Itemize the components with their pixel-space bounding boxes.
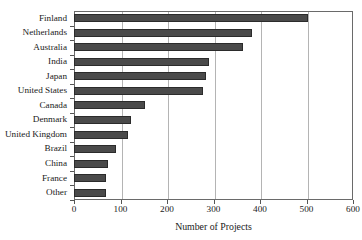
bar-row: [74, 127, 353, 142]
y-axis-tick-label: Canada: [0, 98, 71, 113]
y-axis-tick-label: Netherlands: [0, 26, 71, 41]
x-axis-tick-label: 400: [240, 205, 280, 214]
y-axis-tick-mark: [70, 142, 74, 143]
bar-row: [74, 55, 353, 70]
bar[interactable]: [74, 72, 206, 80]
bar[interactable]: [74, 145, 116, 153]
category-label: United States: [18, 86, 67, 95]
bar-row: [74, 185, 353, 200]
x-axis-tick-label: 500: [287, 205, 327, 214]
bar[interactable]: [74, 189, 106, 197]
bar-row: [74, 171, 353, 186]
y-axis-tick-label: Other: [0, 185, 71, 200]
bar[interactable]: [74, 101, 145, 109]
category-label: Canada: [39, 101, 67, 110]
category-label: Denmark: [33, 115, 67, 124]
bar-row: [74, 69, 353, 84]
y-axis-tick-mark: [70, 40, 74, 41]
bar[interactable]: [74, 174, 106, 182]
y-axis-tick-mark: [70, 98, 74, 99]
category-label: India: [48, 57, 67, 66]
y-axis-tick-mark: [70, 113, 74, 114]
y-axis-tick-label: India: [0, 55, 71, 70]
y-axis-tick-label: Brazil: [0, 142, 71, 157]
bar-row: [74, 142, 353, 157]
category-label: Netherlands: [23, 28, 67, 37]
category-label: Other: [46, 188, 67, 197]
x-axis-tick-label: 0: [54, 205, 94, 214]
bar-row: [74, 156, 353, 171]
bar-row: [74, 11, 353, 26]
bar-row: [74, 98, 353, 113]
y-axis-tick-mark: [70, 55, 74, 56]
category-label: United Kingdom: [5, 130, 67, 139]
y-axis-tick-mark: [70, 185, 74, 186]
y-axis-tick-label: Finland: [0, 11, 71, 26]
bars-layer: [74, 11, 353, 200]
x-axis-tick-label: 200: [147, 205, 187, 214]
x-axis-tick-label: 100: [101, 205, 141, 214]
x-axis-tick-label: 600: [333, 205, 362, 214]
bar-chart-figure: FinlandNetherlandsAustraliaIndiaJapanUni…: [0, 0, 362, 240]
bar-row: [74, 40, 353, 55]
y-axis-tick-label: France: [0, 171, 71, 186]
bar-row: [74, 84, 353, 99]
category-label: Australia: [33, 43, 67, 52]
bar[interactable]: [74, 43, 243, 51]
bar[interactable]: [74, 131, 128, 139]
y-axis-tick-label: United Kingdom: [0, 127, 71, 142]
y-axis-tick-mark: [70, 156, 74, 157]
y-axis-tick-mark: [70, 26, 74, 27]
bar[interactable]: [74, 14, 308, 22]
y-axis-tick-label: Japan: [0, 69, 71, 84]
bar-row: [74, 26, 353, 41]
figure-title: [0, 0, 362, 4]
y-axis-tick-mark: [70, 69, 74, 70]
y-axis-tick-label: Denmark: [0, 113, 71, 128]
bar[interactable]: [74, 160, 108, 168]
y-axis-tick-label: Australia: [0, 40, 71, 55]
x-axis-title: Number of Projects: [74, 222, 353, 232]
y-axis-tick-mark: [70, 127, 74, 128]
bar[interactable]: [74, 58, 209, 66]
y-axis-tick-mark: [70, 171, 74, 172]
bar[interactable]: [74, 87, 203, 95]
bar[interactable]: [74, 29, 252, 37]
bar-row: [74, 113, 353, 128]
y-axis-category-labels: FinlandNetherlandsAustraliaIndiaJapanUni…: [0, 11, 71, 200]
category-label: China: [45, 159, 67, 168]
y-axis-tick-label: United States: [0, 84, 71, 99]
category-label: Brazil: [45, 144, 67, 153]
category-label: France: [42, 174, 67, 183]
category-label: Japan: [46, 72, 67, 81]
bar[interactable]: [74, 116, 131, 124]
y-axis-tick-label: China: [0, 156, 71, 171]
category-label: Finland: [39, 14, 67, 23]
x-axis-tick-label: 300: [194, 205, 234, 214]
y-axis-tick-mark: [70, 84, 74, 85]
